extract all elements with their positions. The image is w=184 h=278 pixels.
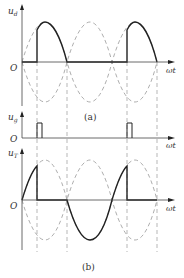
gate-pulse-1 <box>37 123 42 138</box>
guide-lines <box>37 62 157 252</box>
origin-label-a: O <box>10 63 18 73</box>
ug-axis-label: ug <box>8 112 18 124</box>
ud-axis-label: ud <box>8 6 18 17</box>
caption-a: (a) <box>84 112 96 122</box>
origin-label-ug: O <box>10 134 18 144</box>
thyristor-waveform-diagram: ud O ωt ug O ωt (a) uT O ωt (b) <box>0 0 184 278</box>
panel-a-ug: ug O ωt (a) <box>8 111 177 150</box>
x-axis-label-a1: ωt <box>166 66 177 75</box>
ud-output-waveform <box>22 22 157 62</box>
panel-b-ut: uT O ωt (b) <box>8 148 177 272</box>
ut-output-waveform <box>22 166 157 240</box>
ut-axis-label: uT <box>8 148 19 159</box>
caption-b: (b) <box>82 262 95 272</box>
origin-label-b: O <box>10 201 18 211</box>
gate-pulse-2 <box>127 123 132 138</box>
panel-a-ud: ud O ωt <box>8 4 177 106</box>
x-axis-label-a2: ωt <box>166 141 177 150</box>
x-axis-label-b: ωt <box>166 204 177 213</box>
